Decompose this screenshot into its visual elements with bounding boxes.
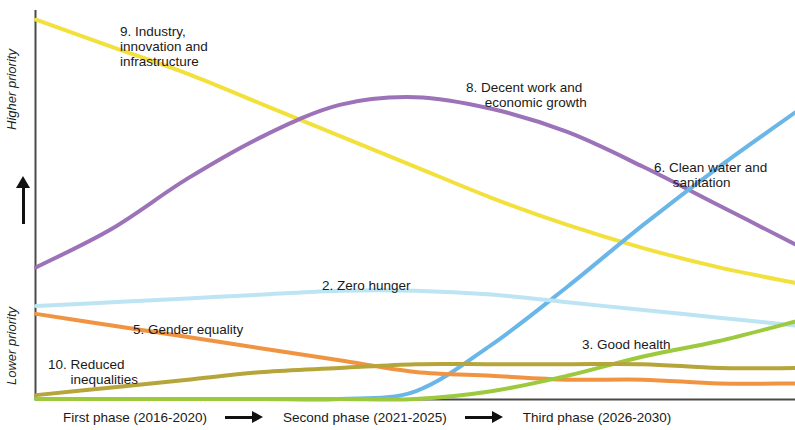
y-axis-high-label: Higher priority (4, 49, 19, 130)
phase-label-first: First phase (2016-2020) (63, 410, 207, 425)
y-axis-low-label: Lower priority (4, 307, 19, 385)
right-arrow-icon (225, 410, 265, 424)
right-arrow-icon (465, 410, 505, 424)
series-label-industry: 9. Industry, innovation and infrastructu… (120, 24, 208, 69)
series-label-gender-equality: 5. Gender equality (133, 322, 243, 337)
series-label-decent-work: 8. Decent work and economic growth (466, 80, 587, 110)
series-line (36, 113, 795, 400)
series-lines (36, 20, 795, 400)
up-arrow-icon (16, 176, 32, 224)
series-label-zero-hunger: 2. Zero hunger (322, 278, 411, 293)
phase-label-second: Second phase (2021-2025) (283, 410, 447, 425)
phase-axis: First phase (2016-2020) Second phase (20… (35, 404, 795, 430)
priority-trend-chart: Higher priority Lower priority 9. Indust… (0, 0, 795, 430)
series-line (36, 290, 795, 325)
series-label-clean-water: 6. Clean water and sanitation (654, 160, 767, 190)
series-label-reduced-inequalities: 10. Reduced inequalities (48, 357, 138, 387)
phase-label-third: Third phase (2026-2030) (523, 410, 672, 425)
series-label-good-health: 3. Good health (582, 337, 671, 352)
